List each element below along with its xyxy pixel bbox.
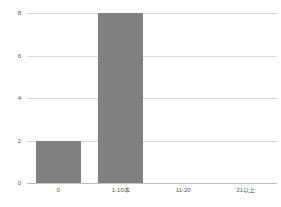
y-tick-label: 4 [0,95,21,101]
bar-slot [215,13,278,183]
y-axis: 02468 [0,13,23,183]
bar-slot [90,13,153,183]
plot-area [27,13,277,183]
gridline-y-0 [27,183,277,184]
y-tick-label: 6 [0,53,21,59]
bar-slot [27,13,90,183]
y-tick-label: 8 [0,10,21,16]
x-tick-label: 21以上 [215,186,278,194]
y-tick-label: 0 [0,180,21,186]
bar-chart: 02468 01-10本11-2021以上 [0,0,281,207]
bar [98,13,143,183]
x-tick-label: 0 [27,186,90,194]
x-tick-label: 11-20 [152,186,215,194]
bar [36,141,81,184]
x-axis: 01-10本11-2021以上 [27,186,277,200]
bar-series [27,13,277,183]
bar-slot [152,13,215,183]
y-tick-label: 2 [0,138,21,144]
x-tick-label: 1-10本 [90,186,153,194]
